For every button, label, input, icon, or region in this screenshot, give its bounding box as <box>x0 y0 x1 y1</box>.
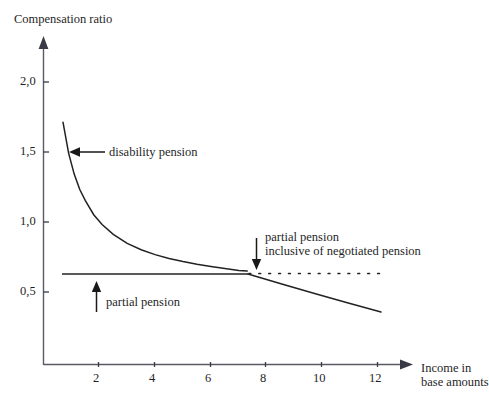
partial-pension-arrow-icon <box>92 281 101 312</box>
x-axis-tick-label-6: 6 <box>205 371 211 385</box>
annotation-disability-pension: disability pension <box>109 145 198 159</box>
x-axis-title: Income inbase amounts <box>421 361 489 389</box>
x-axis-title-line1: Income in <box>421 361 471 375</box>
y-axis-tick-label-1.5: 1,5 <box>20 144 36 158</box>
chart-title: Compensation ratio <box>14 12 112 26</box>
y-axis-tick-label-2.0: 2,0 <box>20 74 36 88</box>
y-axis-tick-label-1.0: 1,0 <box>20 214 36 228</box>
x-axis-title-line2: base amounts <box>421 375 489 389</box>
annotation-partial-pension-inclusive-line2: inclusive of negotiated pension <box>265 244 421 258</box>
disability-pension-arrow-icon <box>69 147 105 157</box>
y-axis-arrowhead <box>39 36 49 49</box>
annotation-partial-pension: partial pension <box>106 295 180 309</box>
partial-pension-inclusive-arrow-icon <box>252 238 261 270</box>
x-axis-tick-label-10: 10 <box>313 371 326 385</box>
x-axis-tick-label-12: 12 <box>369 371 382 385</box>
annotation-partial-pension-inclusive-line1: partial pension <box>265 230 339 244</box>
x-axis-tick-label-8: 8 <box>260 371 266 385</box>
partial-pension-declining-line <box>248 274 381 312</box>
annotation-partial-pension-inclusive: partial pensioninclusive of negotiated p… <box>265 230 421 258</box>
x-axis-tick-label-4: 4 <box>149 371 155 385</box>
x-axis-arrowhead <box>400 359 413 369</box>
x-axis-tick-label-2: 2 <box>93 371 99 385</box>
y-axis-tick-label-0.5: 0,5 <box>20 284 36 298</box>
